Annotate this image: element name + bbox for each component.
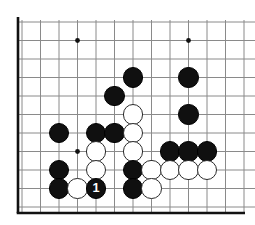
white-stone-i7[interactable] [141, 160, 161, 180]
black-stone-g5[interactable] [104, 123, 124, 143]
white-stone-f6[interactable] [123, 104, 143, 124]
go-board-figure: 1 [0, 0, 255, 225]
star-point-lower-left [75, 149, 80, 154]
black-stone-move-1[interactable]: 1 [86, 178, 106, 198]
star-point-upper-right [186, 38, 191, 43]
black-stone-j6[interactable] [123, 178, 143, 198]
black-stone-h10[interactable] [197, 141, 217, 161]
white-stone-i9[interactable] [178, 160, 198, 180]
black-stone-d5[interactable] [104, 86, 124, 106]
black-stone-h8[interactable] [160, 141, 180, 161]
white-stone-j3[interactable] [67, 178, 87, 198]
black-stone-j2[interactable] [49, 178, 69, 198]
black-stone-h9[interactable] [178, 141, 198, 161]
white-stone-h6[interactable] [123, 141, 143, 161]
black-stone-d9[interactable] [178, 67, 198, 87]
white-stone-j7[interactable] [141, 178, 161, 198]
black-stone-d6[interactable] [123, 67, 143, 87]
stone-move-number: 1 [87, 179, 105, 197]
star-point-upper-left [75, 38, 80, 43]
white-stone-h4[interactable] [86, 141, 106, 161]
black-stone-e9[interactable] [178, 104, 198, 124]
